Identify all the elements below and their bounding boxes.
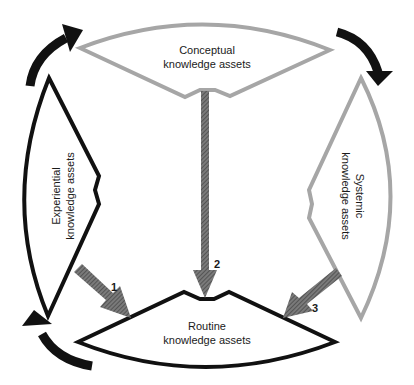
conceptual-knowledge-assets-node: Conceptual knowledge assets — [80, 24, 330, 97]
cycle-arrow-top-left-icon — [30, 24, 83, 86]
flow-arrow-2: 2 — [193, 91, 220, 298]
cycle-arrow-bottom-left-icon — [22, 310, 92, 366]
conceptual-label-line1: Conceptual — [179, 44, 235, 56]
routine-label-line2: knowledge assets — [163, 334, 251, 346]
systemic-label-line1: Systemic — [354, 174, 366, 219]
routine-label-line1: Routine — [188, 320, 226, 332]
conceptual-label-line2: knowledge assets — [163, 58, 251, 70]
experiential-label-line2: knowledge assets — [64, 152, 76, 240]
flow-arrow-1: 1 — [74, 264, 131, 318]
flow-label-3: 3 — [312, 302, 318, 314]
cycle-arrow-top-right-icon — [337, 32, 393, 86]
experiential-label-line1: Experiential — [50, 167, 62, 224]
knowledge-assets-diagram: Conceptual knowledge assets Experiential… — [0, 0, 414, 385]
flow-arrow-3: 3 — [283, 268, 342, 318]
flow-label-1: 1 — [111, 281, 117, 293]
flow-label-2: 2 — [214, 258, 220, 270]
systemic-label-line2: knowledge assets — [340, 152, 352, 240]
